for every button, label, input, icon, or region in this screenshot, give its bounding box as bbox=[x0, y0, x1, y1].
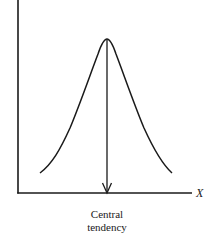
diagram-canvas bbox=[0, 0, 218, 242]
caption-line-1: Central bbox=[76, 208, 138, 221]
central-tendency-caption: Central tendency bbox=[76, 208, 138, 234]
x-axis-label: X bbox=[196, 186, 203, 201]
bell-curve bbox=[40, 39, 172, 173]
caption-line-2: tendency bbox=[76, 221, 138, 234]
